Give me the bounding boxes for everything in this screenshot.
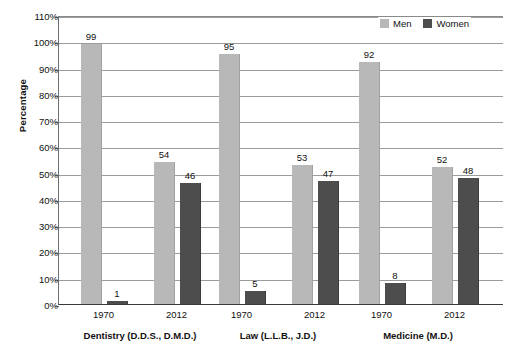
chart-legend: MenWomen bbox=[378, 17, 471, 30]
bar-value-label: 99 bbox=[86, 31, 97, 42]
bar-men: 92 bbox=[359, 62, 380, 304]
bar-value-label: 8 bbox=[392, 270, 397, 281]
y-axis-tick-label: 20% bbox=[10, 247, 58, 258]
bar-value-label: 48 bbox=[463, 165, 474, 176]
x-axis-year-label: 2012 bbox=[444, 309, 465, 320]
y-axis-tick-label: 40% bbox=[10, 194, 58, 205]
y-axis-tick-label: 10% bbox=[10, 273, 58, 284]
x-axis-year-label: 1970 bbox=[231, 309, 252, 320]
legend-label: Women bbox=[436, 18, 469, 29]
gridline bbox=[59, 122, 503, 123]
bar-value-label: 47 bbox=[323, 168, 334, 179]
bar-men: 52 bbox=[432, 167, 453, 304]
legend-item-men[interactable]: Men bbox=[380, 18, 411, 29]
bar-value-label: 54 bbox=[159, 149, 170, 160]
x-axis-group-label: Law (L.L.B., J.D.) bbox=[240, 330, 317, 341]
x-axis-year-label: 1970 bbox=[93, 309, 114, 320]
y-axis-tick-label: 90% bbox=[10, 63, 58, 74]
bar-women: 8 bbox=[385, 283, 406, 304]
bar-women: 1 bbox=[107, 301, 128, 304]
bar-value-label: 1 bbox=[114, 288, 119, 299]
gridline bbox=[59, 43, 503, 44]
y-axis-tick-label: 100% bbox=[10, 37, 58, 48]
y-axis-tick-label: 60% bbox=[10, 142, 58, 153]
gridline bbox=[59, 70, 503, 71]
bar-women: 46 bbox=[180, 183, 201, 304]
y-axis-tick-label: 70% bbox=[10, 116, 58, 127]
bar-chart: Percentage 991544695553479285248 MenWome… bbox=[0, 0, 509, 354]
bar-women: 47 bbox=[318, 181, 339, 304]
bar-men: 95 bbox=[219, 54, 240, 304]
bar-women: 5 bbox=[245, 291, 266, 304]
gridline bbox=[59, 96, 503, 97]
bar-value-label: 46 bbox=[185, 170, 196, 181]
legend-swatch-women-icon bbox=[423, 19, 432, 28]
y-axis-tick-label: 80% bbox=[10, 89, 58, 100]
legend-swatch-men-icon bbox=[380, 19, 389, 28]
x-axis-year-label: 2012 bbox=[304, 309, 325, 320]
bar-men: 54 bbox=[154, 162, 175, 304]
y-axis-tick-label: 30% bbox=[10, 221, 58, 232]
legend-label: Men bbox=[393, 18, 411, 29]
x-axis-year-label: 2012 bbox=[166, 309, 187, 320]
x-axis-group-label: Medicine (M.D.) bbox=[383, 330, 453, 341]
bar-men: 99 bbox=[81, 44, 102, 304]
bar-value-label: 5 bbox=[252, 278, 257, 289]
bar-value-label: 92 bbox=[364, 49, 375, 60]
x-axis-group-label: Dentistry (D.D.S., D.M.D.) bbox=[84, 330, 197, 341]
bar-value-label: 53 bbox=[297, 152, 308, 163]
bar-women: 48 bbox=[458, 178, 479, 304]
gridline bbox=[59, 148, 503, 149]
bar-men: 53 bbox=[292, 165, 313, 304]
x-axis-year-label: 1970 bbox=[371, 309, 392, 320]
bar-value-label: 52 bbox=[437, 154, 448, 165]
plot-area: 991544695553479285248 bbox=[58, 16, 503, 305]
y-axis-tick-label: 0% bbox=[10, 300, 58, 311]
bar-value-label: 95 bbox=[224, 41, 235, 52]
y-axis-tick-label: 110% bbox=[10, 11, 58, 22]
y-axis-tick-label: 50% bbox=[10, 168, 58, 179]
legend-item-women[interactable]: Women bbox=[423, 18, 469, 29]
